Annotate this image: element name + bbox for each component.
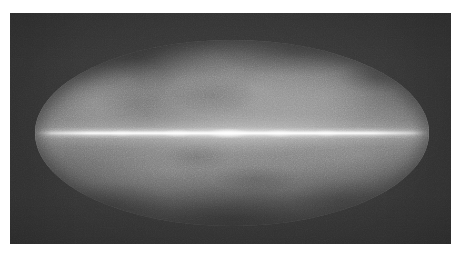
limb-falloff-layer <box>35 40 429 226</box>
north-dark-lane-layer <box>35 40 429 226</box>
figure-root: Grayscale Mollweide all-sky map showing … <box>0 0 461 257</box>
galactic-plane-knots <box>35 126 429 140</box>
south-diffuse-band-layer <box>35 40 429 226</box>
emission-base-layer <box>35 40 429 226</box>
galactic-plane-ridge <box>35 127 429 139</box>
thick-disk-glow-layer <box>35 40 429 226</box>
north-diffuse-bulge-layer <box>35 40 429 226</box>
north-polar-patch-layer <box>35 40 429 226</box>
south-dark-region-layer <box>35 40 429 226</box>
limb-softening-layer <box>35 40 429 226</box>
sky-map-plate <box>10 13 451 244</box>
mollweide-projection-ellipse <box>35 40 429 226</box>
